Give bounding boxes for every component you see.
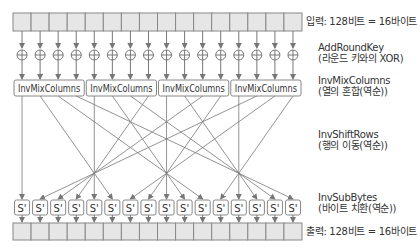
input-bytes-row xyxy=(13,13,302,31)
input-byte-cell xyxy=(103,13,121,31)
shift-row-line xyxy=(76,96,148,199)
inv-mix-columns-label: InvMixColumns xyxy=(18,83,80,94)
input-byte-cell xyxy=(31,13,49,31)
shift-row-line xyxy=(148,96,220,199)
output-byte-cell xyxy=(121,223,139,240)
input-byte-cell xyxy=(121,13,139,31)
input-label: 입력: 128비트 = 16바이트 xyxy=(306,16,417,27)
input-byte-cell xyxy=(176,13,194,31)
stage-desc: (라운드 키와의 XOR) xyxy=(318,53,403,64)
output-byte-cell xyxy=(284,223,302,240)
stage-desc: (행의 이동(역순)) xyxy=(318,140,387,151)
inv-sbox-label: S' xyxy=(108,203,117,214)
shift-row-line xyxy=(221,96,293,199)
input-byte-cell xyxy=(284,13,302,31)
inv-sbox-label: S' xyxy=(72,203,81,214)
inv-mix-columns-label: InvMixColumns xyxy=(235,83,297,94)
inv-sbox-label: S' xyxy=(36,203,45,214)
output-bytes-row xyxy=(13,223,302,240)
output-byte-cell xyxy=(158,223,176,240)
stage-name: InvShiftRows xyxy=(318,129,387,140)
output-byte-cell xyxy=(139,223,157,240)
inv-sbox-label: S' xyxy=(252,203,261,214)
input-byte-cell xyxy=(85,13,103,31)
stage-desc: (열의 혼합(역순)) xyxy=(318,86,390,97)
input-byte-cell xyxy=(158,13,176,31)
stage-name: AddRoundKey xyxy=(318,42,403,53)
inv-sub-bytes-row: S'S'S'S'S'S'S'S'S'S'S'S'S'S'S'S' xyxy=(15,200,301,222)
output-byte-cell xyxy=(49,223,67,240)
inv-sbox-label: S' xyxy=(216,203,225,214)
inv-sbox-label: S' xyxy=(180,203,189,214)
input-byte-cell xyxy=(67,13,85,31)
output-byte-cell xyxy=(67,223,85,240)
xor-operators-row xyxy=(17,50,298,60)
output-label: 출력: 128비트 = 16바이트 xyxy=(306,226,417,237)
input-byte-cell xyxy=(212,13,230,31)
inv-mix-columns-label: InvMixColumns xyxy=(90,83,152,94)
stage-label-inv-shift-rows: InvShiftRows (행의 이동(역순)) xyxy=(318,129,387,151)
output-byte-cell xyxy=(13,223,31,240)
input-byte-cell xyxy=(248,13,266,31)
inv-sbox-label: S' xyxy=(234,203,243,214)
input-byte-cell xyxy=(266,13,284,31)
stage-label-inv-mix-columns: InvMixColumns (열의 혼합(역순)) xyxy=(318,75,390,97)
inv-mix-columns-label: InvMixColumns xyxy=(163,83,225,94)
inv-sbox-label: S' xyxy=(126,203,135,214)
output-byte-cell xyxy=(248,223,266,240)
output-byte-cell xyxy=(85,223,103,240)
input-byte-cell xyxy=(139,13,157,31)
output-byte-cell xyxy=(194,223,212,240)
inv-sbox-label: S' xyxy=(17,203,26,214)
output-byte-cell xyxy=(176,223,194,240)
shift-row-line xyxy=(40,96,257,199)
inv-sbox-label: S' xyxy=(54,203,63,214)
shift-row-line xyxy=(185,96,257,199)
input-byte-cell xyxy=(49,13,67,31)
inv-sbox-label: S' xyxy=(270,203,279,214)
stage-name: InvMixColumns xyxy=(318,75,390,86)
inv-sbox-label: S' xyxy=(144,203,153,214)
input-byte-cell xyxy=(13,13,31,31)
input-byte-cell xyxy=(194,13,212,31)
output-byte-cell xyxy=(31,223,49,240)
stage-name: InvSubBytes xyxy=(318,192,396,203)
inv-sbox-label: S' xyxy=(288,203,297,214)
inv-shift-rows-lines xyxy=(22,96,293,199)
stage-label-inv-sub-bytes: InvSubBytes (바이트 치환(역순)) xyxy=(318,192,396,214)
output-byte-cell xyxy=(266,223,284,240)
output-byte-cell xyxy=(212,223,230,240)
inv-sbox-label: S' xyxy=(162,203,171,214)
output-byte-cell xyxy=(230,223,248,240)
shift-row-line xyxy=(40,96,112,199)
inv-sbox-label: S' xyxy=(90,203,99,214)
output-byte-cell xyxy=(103,223,121,240)
stage-desc: (바이트 치환(역순)) xyxy=(318,203,396,214)
input-byte-cell xyxy=(230,13,248,31)
stage-label-add-round-key: AddRoundKey (라운드 키와의 XOR) xyxy=(318,42,403,64)
inv-mix-columns-row: InvMixColumnsInvMixColumnsInvMixColumnsI… xyxy=(14,80,301,96)
inv-sbox-label: S' xyxy=(198,203,207,214)
